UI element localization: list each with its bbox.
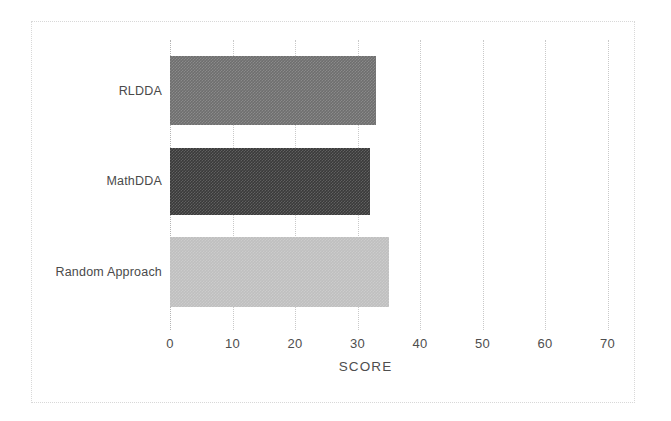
x-tick-label-70: 70: [600, 336, 615, 351]
x-tick-label-30: 30: [350, 336, 365, 351]
bar-mathdda: [170, 148, 370, 215]
x-tick-label-10: 10: [225, 336, 240, 351]
category-axis-labels: RLDDA MathDDA Random Approach: [10, 40, 162, 330]
x-axis-tick-labels: 0 10 20 30 40 50 60 70: [0, 336, 671, 358]
gridline-50: [483, 40, 484, 330]
category-label-mathdda: MathDDA: [12, 174, 162, 188]
x-axis-title-text: SCORE: [339, 359, 393, 374]
plot-area: [170, 40, 630, 330]
category-label-random-approach: Random Approach: [12, 265, 162, 279]
gridline-40: [420, 40, 421, 330]
category-label-rldda: RLDDA: [12, 84, 162, 98]
x-axis-title: SCORE: [0, 359, 671, 374]
x-tick-label-0: 0: [166, 336, 174, 351]
x-tick-label-50: 50: [475, 336, 490, 351]
x-tick-label-60: 60: [537, 336, 552, 351]
bar-chart-figure: RLDDA MathDDA Random Approach 0 10 20 30…: [0, 0, 671, 421]
x-tick-label-20: 20: [287, 336, 302, 351]
bar-rldda: [170, 56, 376, 125]
gridline-60: [545, 40, 546, 330]
x-tick-label-40: 40: [412, 336, 427, 351]
bar-random-approach: [170, 237, 389, 307]
gridline-70: [608, 40, 609, 330]
